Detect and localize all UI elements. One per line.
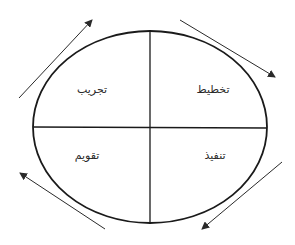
horizontal-divider <box>33 127 267 128</box>
cycle-diagram <box>0 0 295 245</box>
label-planning: تخطيط <box>197 84 230 95</box>
label-experimentation: تجريب <box>77 84 107 95</box>
label-evaluation: تقويم <box>75 150 100 161</box>
arrow-bottom-left-icon <box>20 173 105 229</box>
arrow-bottom-right-icon <box>202 162 282 229</box>
arrow-top-right-icon <box>180 20 275 77</box>
label-execution: تنفيذ <box>204 150 225 161</box>
